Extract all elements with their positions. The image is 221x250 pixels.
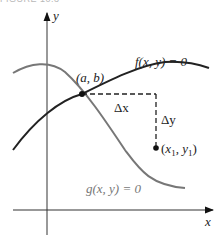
curve-f-label: f(x, y) = 0 [135,54,188,69]
intersection-label: (a, b) [76,70,104,85]
curve-f [13,62,209,150]
x-axis-label: x [204,214,211,229]
target-point-label: (x1, y1) [161,141,197,158]
delta-x-label: Δx [114,100,129,115]
target-point [153,145,159,151]
y-axis-label: y [51,8,59,23]
diagram-canvas: y x (a, b) f(x, y) = 0 g(x, y) = 0 Δx Δy… [0,0,221,250]
delta-y-label: Δy [161,112,176,127]
intersection-point [79,91,85,97]
curve-g-label: g(x, y) = 0 [86,181,141,196]
